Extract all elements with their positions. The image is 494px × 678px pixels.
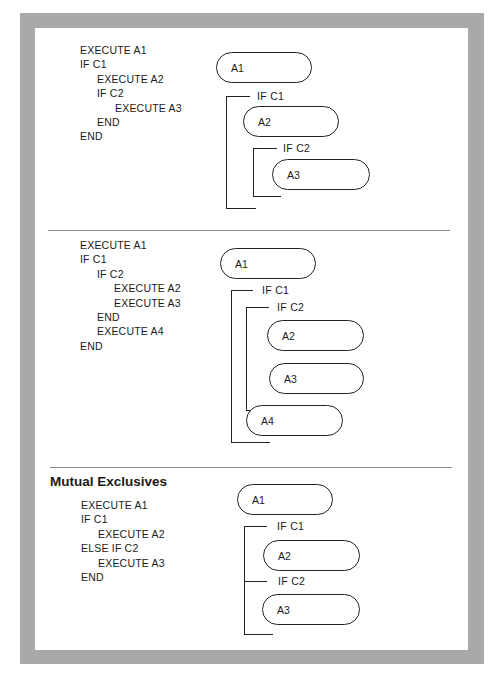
code-line: EXECUTE A1 bbox=[81, 498, 165, 512]
bracket-c1-top bbox=[226, 96, 250, 97]
code-line: EXECUTE A4 bbox=[80, 324, 181, 338]
code-line: EXECUTE A2 bbox=[80, 72, 182, 86]
box-a2: A2 bbox=[267, 320, 364, 351]
code-line: EXECUTE A2 bbox=[80, 281, 181, 295]
code-line: END bbox=[80, 129, 182, 143]
section-heading: Mutual Exclusives bbox=[50, 474, 167, 489]
code-line: END bbox=[80, 115, 182, 129]
code-line: IF C2 bbox=[80, 267, 181, 281]
bracket-c2-top bbox=[253, 148, 277, 149]
bracket-c2-branch bbox=[244, 581, 267, 582]
code-line: IF C1 bbox=[81, 512, 165, 526]
section-divider bbox=[48, 230, 450, 231]
bracket-c2-vertical bbox=[246, 307, 247, 411]
box-a3: A3 bbox=[262, 594, 360, 625]
bracket-c1-vertical bbox=[226, 96, 227, 209]
condition-if-c1: IF C1 bbox=[277, 520, 304, 532]
condition-if-c2: IF C2 bbox=[277, 301, 304, 313]
bracket-c2-vertical bbox=[253, 148, 254, 197]
panel-3-code: EXECUTE A1 IF C1 EXECUTE A2 ELSE IF C2 E… bbox=[81, 498, 165, 584]
bracket-vertical bbox=[244, 526, 245, 634]
condition-if-c1: IF C1 bbox=[257, 90, 284, 102]
code-line: EXECUTE A1 bbox=[80, 238, 181, 252]
bracket-c2-top bbox=[246, 307, 269, 308]
bracket-bottom bbox=[244, 634, 273, 635]
section-divider bbox=[50, 467, 452, 468]
bracket-c2-bottom bbox=[253, 196, 281, 197]
code-line: IF C1 bbox=[80, 252, 181, 266]
code-line: IF C1 bbox=[80, 57, 182, 71]
code-line: EXECUTE A3 bbox=[81, 556, 165, 570]
box-a1: A1 bbox=[237, 484, 333, 515]
bracket-c1-bottom bbox=[226, 208, 256, 209]
code-line: END bbox=[80, 339, 181, 353]
panel-2-code: EXECUTE A1 IF C1 IF C2 EXECUTE A2 EXECUT… bbox=[80, 238, 181, 353]
code-line: ELSE IF C2 bbox=[81, 541, 165, 555]
code-line: END bbox=[81, 570, 165, 584]
bracket-c1-vertical bbox=[231, 290, 232, 443]
code-line: EXECUTE A3 bbox=[80, 101, 182, 115]
bracket-c1-top bbox=[231, 290, 253, 291]
panel-1-code: EXECUTE A1 IF C1 EXECUTE A2 IF C2 EXECUT… bbox=[80, 43, 182, 144]
box-a1: A1 bbox=[216, 52, 312, 83]
bracket-c1-bottom bbox=[231, 442, 270, 443]
box-a2: A2 bbox=[243, 106, 339, 137]
box-a3: A3 bbox=[272, 159, 370, 190]
code-line: IF C2 bbox=[80, 86, 182, 100]
box-a3: A3 bbox=[269, 363, 364, 394]
condition-if-c2: IF C2 bbox=[278, 575, 305, 587]
bracket-c1-top bbox=[244, 526, 267, 527]
code-line: EXECUTE A3 bbox=[80, 296, 181, 310]
box-a2: A2 bbox=[263, 540, 360, 571]
code-line: EXECUTE A1 bbox=[80, 43, 182, 57]
box-a4: A4 bbox=[246, 405, 343, 436]
condition-if-c2: IF C2 bbox=[283, 142, 310, 154]
code-line: END bbox=[80, 310, 181, 324]
condition-if-c1: IF C1 bbox=[262, 284, 289, 296]
box-a1: A1 bbox=[220, 248, 316, 279]
code-line: EXECUTE A2 bbox=[81, 527, 165, 541]
